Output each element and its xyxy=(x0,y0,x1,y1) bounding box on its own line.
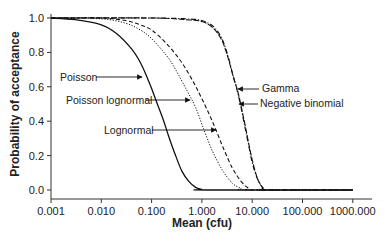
y-tick-label: 0.8 xyxy=(29,46,44,58)
x-axis-title: Mean (cfu) xyxy=(172,216,232,230)
x-ticks: 0.0010.0100.1001.00010.000100.0001000.00… xyxy=(37,199,376,217)
label-gamma: Gamma xyxy=(262,82,300,94)
y-axis-title: Probability of acceptance xyxy=(8,31,22,177)
annotations: Poisson Poisson lognormal Lognormal Gamm… xyxy=(60,71,343,136)
y-tick-label: 0.2 xyxy=(29,150,44,162)
y-ticks: 0.00.20.40.60.81.0 xyxy=(29,12,51,196)
x-tick-label: 100.000 xyxy=(283,205,323,217)
y-tick-label: 0.6 xyxy=(29,81,44,93)
label-poisson: Poisson xyxy=(60,71,98,83)
label-lognormal: Lognormal xyxy=(104,124,154,136)
label-negative-binomial: Negative binomial xyxy=(260,97,343,109)
axes: 0.00.20.40.60.81.0 0.0010.0100.1001.0001… xyxy=(29,12,376,217)
x-tick-label: 1000.000 xyxy=(330,205,376,217)
x-tick-label: 0.010 xyxy=(88,205,116,217)
label-poisson-lognormal: Poisson lognormal xyxy=(66,94,152,106)
oc-curve-chart: 0.00.20.40.60.81.0 0.0010.0100.1001.0001… xyxy=(0,0,385,244)
x-tick-label: 0.001 xyxy=(37,205,65,217)
y-tick-label: 0.4 xyxy=(29,115,44,127)
x-tick-label: 10.000 xyxy=(235,205,269,217)
y-tick-label: 1.0 xyxy=(29,12,44,24)
y-tick-label: 0.0 xyxy=(29,184,44,196)
x-tick-label: 0.100 xyxy=(138,205,166,217)
